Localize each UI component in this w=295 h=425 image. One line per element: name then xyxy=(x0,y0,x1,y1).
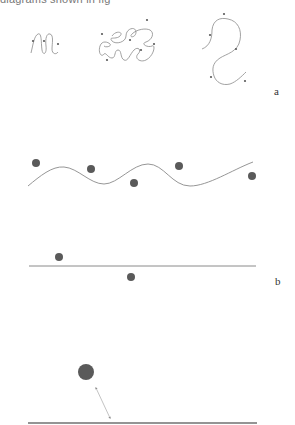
particle xyxy=(175,162,183,170)
particle xyxy=(210,76,212,78)
panel-label-b: b xyxy=(275,275,281,287)
particle xyxy=(130,179,138,187)
panel-label-a: a xyxy=(274,85,279,97)
particle xyxy=(140,49,142,51)
particle xyxy=(248,172,256,180)
particle xyxy=(87,165,95,173)
panel-distance xyxy=(28,364,257,423)
particle xyxy=(101,33,103,35)
panel-b-straight xyxy=(29,253,256,281)
large-particle xyxy=(78,364,94,380)
distance-arrow xyxy=(96,388,110,418)
particle xyxy=(43,40,45,42)
particle xyxy=(223,13,225,15)
particle xyxy=(127,273,135,281)
compact-coil-curve xyxy=(31,34,58,54)
particle xyxy=(209,34,211,36)
tangled-coil-curve xyxy=(99,29,154,61)
particle xyxy=(153,43,155,45)
particle xyxy=(146,19,148,21)
wavy-curve xyxy=(28,162,253,186)
panel-a xyxy=(31,13,246,85)
particle xyxy=(235,48,237,50)
particle xyxy=(106,59,108,61)
particle xyxy=(244,80,246,82)
extended-s-curve xyxy=(202,18,246,84)
panel-b-wavy xyxy=(28,159,256,187)
figure-canvas xyxy=(0,0,295,425)
particle xyxy=(129,39,131,41)
particle xyxy=(32,40,34,42)
particle xyxy=(32,159,40,167)
particle xyxy=(55,253,63,261)
particle xyxy=(57,43,59,45)
